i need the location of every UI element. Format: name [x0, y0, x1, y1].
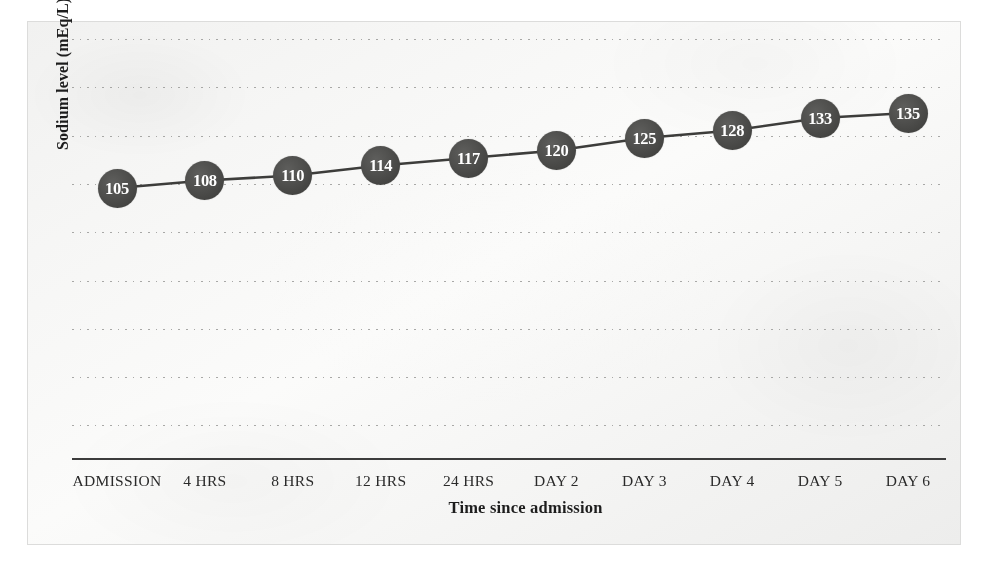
x-tick-label: DAY 2 — [534, 472, 579, 490]
x-tick-label: DAY 4 — [710, 472, 755, 490]
x-tick-label: ADMISSION — [73, 472, 162, 490]
data-point-marker: 117 — [449, 139, 488, 178]
x-tick-label: DAY 6 — [886, 472, 931, 490]
x-tick-label: DAY 5 — [798, 472, 843, 490]
data-point-marker: 120 — [537, 131, 576, 170]
x-tick-label: 12 HRS — [355, 472, 406, 490]
x-tick-label: 24 HRS — [443, 472, 494, 490]
data-point-marker: 133 — [801, 99, 840, 138]
y-axis-title: Sodium level (mEq/L) — [54, 0, 72, 150]
x-axis-title: Time since admission — [0, 498, 999, 518]
x-tick-label: 8 HRS — [271, 472, 314, 490]
data-point-marker: 125 — [625, 119, 664, 158]
data-point-marker: 135 — [889, 94, 928, 133]
data-point-marker: 105 — [98, 169, 137, 208]
series-line — [117, 113, 908, 188]
data-point-marker: 110 — [273, 156, 312, 195]
x-tick-label: 4 HRS — [183, 472, 226, 490]
x-tick-label: DAY 3 — [622, 472, 667, 490]
chart-screenshot: 105108110114117120125128133135 Sodium le… — [0, 0, 999, 575]
data-point-marker: 128 — [713, 111, 752, 150]
data-point-marker: 114 — [361, 146, 400, 185]
